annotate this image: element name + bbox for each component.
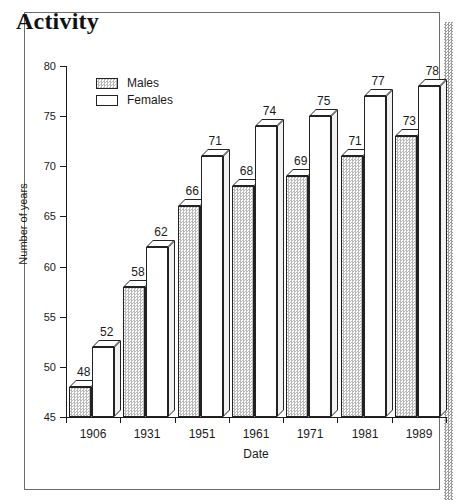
- legend-label-females: Females: [127, 93, 173, 107]
- chart-legend: Males Females: [96, 76, 173, 110]
- legend-swatch-females-icon: [96, 95, 118, 106]
- legend-swatch-males-icon: [96, 78, 118, 89]
- page-drop-shadow: [444, 22, 453, 500]
- legend-item-males: Males: [96, 76, 173, 90]
- page-frame: [24, 12, 440, 490]
- page-title: Activity: [16, 8, 99, 35]
- legend-label-males: Males: [127, 76, 159, 90]
- legend-item-females: Females: [96, 93, 173, 107]
